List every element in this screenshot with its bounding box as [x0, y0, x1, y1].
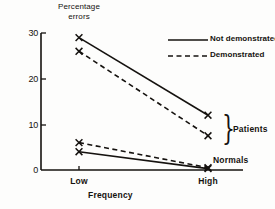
legend-label-demonstrated: Demonstrated	[210, 50, 264, 59]
series-line-patients-not-demonstrated	[79, 38, 208, 116]
legend-label-not-demonstrated: Not demonstrated	[210, 34, 275, 43]
series-patients-demonstrated	[76, 48, 212, 139]
series-line-normals-not-demonstrated	[79, 152, 208, 169]
group-label-patients: Patients	[233, 124, 268, 134]
group-label-normals: Normals	[213, 155, 248, 165]
data-point-patients-not-demonstrated-low	[76, 34, 83, 41]
data-point-patients-demonstrated-low	[76, 48, 83, 55]
series-patients-not-demonstrated	[76, 34, 212, 118]
legend-swatch-solid	[168, 39, 208, 41]
series-line-normals-demonstrated	[79, 143, 208, 168]
plot-area	[0, 0, 275, 209]
data-point-patients-demonstrated-high	[205, 132, 212, 139]
legend-swatch-dashed	[168, 55, 208, 57]
chart-figure: Percentage errors 30 20 10 0 Low High Fr…	[0, 0, 275, 209]
series-normals-not-demonstrated	[76, 148, 212, 172]
series-line-patients-demonstrated	[79, 51, 208, 135]
data-point-patients-not-demonstrated-high	[205, 112, 212, 119]
